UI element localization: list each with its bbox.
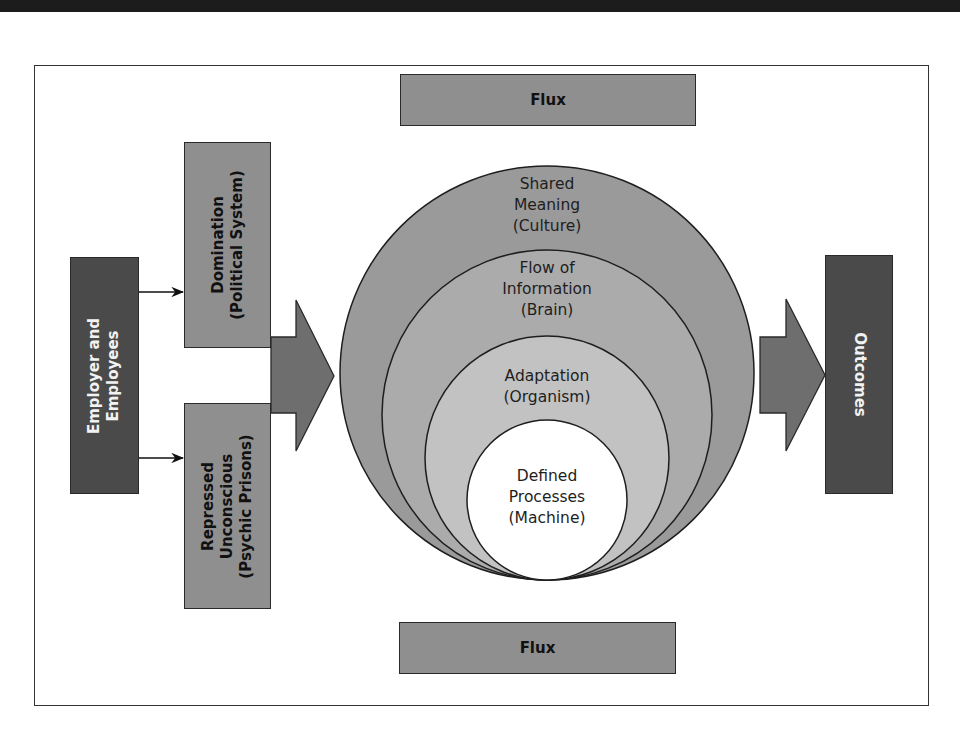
repressed-unconscious-label: Repressed Unconscious (Psychic Prisons): [199, 434, 256, 578]
ring-culture-label: Shared Meaning (Culture): [447, 174, 647, 237]
employer-employees-box: Employer and Employees: [70, 257, 139, 494]
flux-top-box: Flux: [400, 74, 696, 126]
block-arrow-left: [271, 300, 334, 451]
flux-bottom-box: Flux: [399, 622, 676, 674]
domination-box: Domination (Political System): [184, 142, 271, 348]
ring-brain-label: Flow of Information (Brain): [447, 258, 647, 321]
block-arrow-right: [760, 299, 825, 451]
ring-organism-label: Adaptation (Organism): [447, 366, 647, 408]
employer-employees-label: Employer and Employees: [86, 317, 124, 433]
domination-label: Domination (Political System): [209, 170, 247, 319]
outcomes-label: Outcomes: [850, 332, 869, 417]
repressed-unconscious-box: Repressed Unconscious (Psychic Prisons): [184, 403, 271, 609]
outcomes-box: Outcomes: [825, 255, 893, 494]
flux-bottom-label: Flux: [520, 639, 556, 657]
ring-machine-label: Defined Processes (Machine): [447, 466, 647, 529]
flux-top-label: Flux: [530, 91, 566, 109]
